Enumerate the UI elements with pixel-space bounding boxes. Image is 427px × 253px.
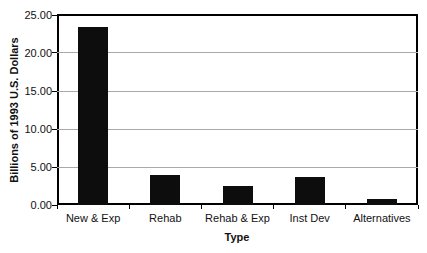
bar-rehab-exp bbox=[223, 186, 253, 205]
x-axis-tick bbox=[418, 205, 419, 209]
x-tick-label: Alternatives bbox=[353, 212, 410, 224]
plot-area bbox=[57, 14, 418, 205]
bar-new-exp bbox=[78, 27, 108, 205]
y-gridline bbox=[57, 129, 418, 130]
y-tick-label: 15.00 bbox=[10, 85, 52, 97]
bar-inst-dev bbox=[295, 177, 325, 205]
y-tick-label: 20.00 bbox=[10, 47, 52, 59]
y-axis-tick bbox=[52, 129, 57, 130]
bar-rehab bbox=[150, 175, 180, 205]
x-axis-title: Type bbox=[225, 231, 250, 243]
y-tick-label: 0.00 bbox=[10, 199, 52, 211]
y-gridline bbox=[57, 52, 418, 53]
x-axis-tick bbox=[129, 205, 130, 209]
y-tick-label: 5.00 bbox=[10, 161, 52, 173]
y-axis-tick bbox=[52, 15, 57, 16]
x-tick-label: Rehab bbox=[149, 212, 181, 224]
y-axis-tick bbox=[52, 91, 57, 92]
x-tick-label: Inst Dev bbox=[290, 212, 330, 224]
y-tick-label: 10.00 bbox=[10, 123, 52, 135]
x-axis-tick bbox=[345, 205, 346, 209]
y-gridline bbox=[57, 91, 418, 92]
y-tick-label: 25.00 bbox=[10, 9, 52, 21]
x-axis-tick bbox=[57, 205, 58, 209]
x-axis-tick bbox=[201, 205, 202, 209]
x-tick-label: New & Exp bbox=[66, 212, 120, 224]
bar-alternatives bbox=[367, 199, 397, 205]
bar-chart: Billions of 1993 U.S. Dollars 0.005.0010… bbox=[0, 0, 427, 253]
y-axis-tick bbox=[52, 167, 57, 168]
x-axis-tick bbox=[273, 205, 274, 209]
x-tick-label: Rehab & Exp bbox=[205, 212, 270, 224]
y-gridline bbox=[57, 167, 418, 168]
y-axis-tick bbox=[52, 52, 57, 53]
